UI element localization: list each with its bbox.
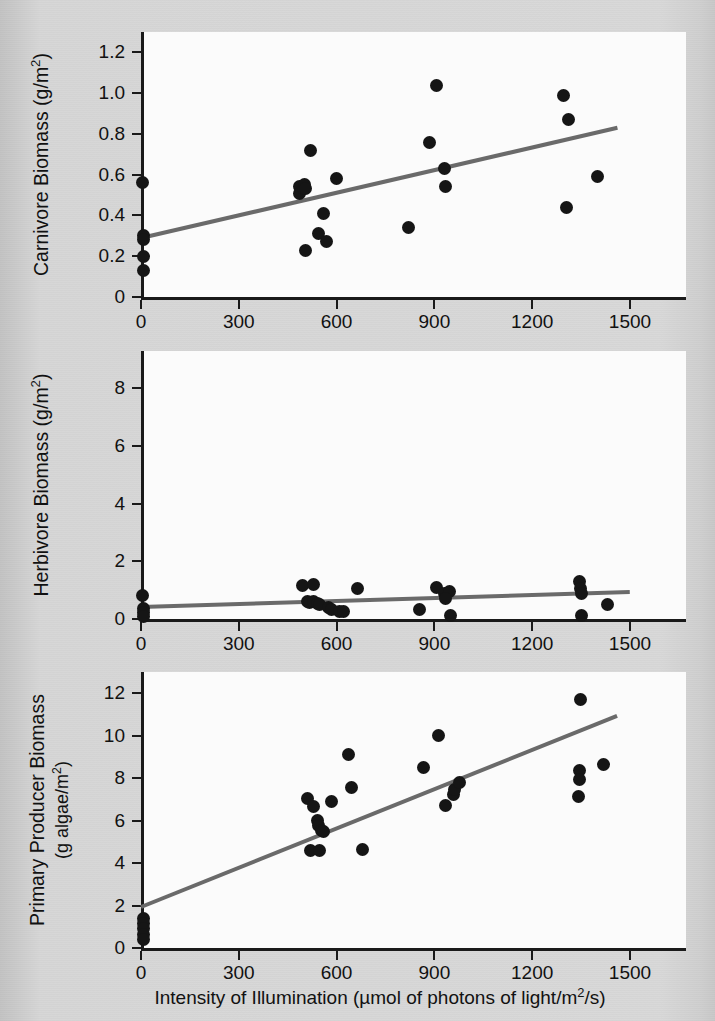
plot-panel — [141, 672, 686, 948]
x-axis-tick — [238, 951, 240, 960]
x-axis-tick — [140, 951, 142, 960]
y-axis-tick — [132, 947, 141, 949]
data-point — [572, 790, 585, 803]
data-point — [432, 729, 445, 742]
y-axis-tick — [132, 820, 141, 822]
x-axis-tick-label: 300 — [199, 963, 279, 982]
x-axis-tick-label: 600 — [297, 963, 377, 982]
y-axis-tick — [132, 862, 141, 864]
x-axis-tick-label: 1200 — [492, 963, 572, 982]
x-axis-tick — [336, 951, 338, 960]
x-axis-line — [141, 948, 686, 951]
data-point — [313, 844, 326, 857]
x-axis-tick — [433, 951, 435, 960]
y-axis-line — [141, 672, 144, 951]
y-axis-title: (g algae/m2) — [50, 612, 73, 1008]
data-point — [345, 781, 358, 794]
y-axis-tick — [132, 735, 141, 737]
y-axis-title: Primary Producer Biomass — [26, 612, 49, 1008]
chart-primary-producer-biomass: 024681012030060090012001500Primary Produ… — [0, 0, 715, 1021]
data-point — [137, 933, 150, 946]
data-point — [574, 693, 587, 706]
x-axis-tick — [629, 951, 631, 960]
x-axis-tick — [531, 951, 533, 960]
x-axis-tick-label: 900 — [394, 963, 474, 982]
y-axis-tick — [132, 777, 141, 779]
data-point — [342, 748, 355, 761]
x-axis-tick-label: 0 — [101, 963, 181, 982]
x-axis-title: Intensity of Illumination (µmol of photo… — [100, 985, 660, 1009]
data-point — [356, 843, 369, 856]
data-point — [573, 773, 586, 786]
data-point — [317, 825, 330, 838]
y-axis-tick — [132, 692, 141, 694]
x-axis-tick-label: 1500 — [590, 963, 670, 982]
